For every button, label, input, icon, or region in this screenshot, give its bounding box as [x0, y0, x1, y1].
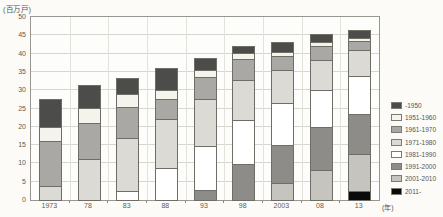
- bar-1973: [39, 99, 62, 200]
- segment-13-1981-1990: [348, 76, 371, 115]
- legend-label: 1991-2000: [405, 163, 436, 170]
- y-tick-label-20: 20: [18, 123, 26, 130]
- x-tick-label-13: 13: [355, 202, 363, 209]
- gridline-x-separator: [70, 17, 71, 200]
- gridline-x-separator: [340, 17, 341, 200]
- y-tick-label-5: 5: [22, 178, 26, 185]
- y-tick-label-0: 0: [22, 196, 26, 203]
- x-tick-mark: [69, 200, 70, 203]
- segment-88-1971-1980: [155, 119, 178, 169]
- segment-1973--1950: [39, 99, 62, 128]
- segment-98-1971-1980: [232, 80, 255, 121]
- y-tick-label-10: 10: [18, 159, 26, 166]
- segment-08-1961-1970: [310, 46, 333, 61]
- bar-2003: [271, 42, 294, 200]
- x-tick-label-1973: 1973: [42, 202, 58, 209]
- legend-item-1971-1980: 1971-1980: [391, 136, 443, 148]
- segment-1973-1951-1960: [39, 127, 62, 143]
- gridline-x-separator: [302, 17, 303, 200]
- segment-83--1950: [116, 78, 139, 94]
- legend-item-1951-1960: 1951-1960: [391, 111, 443, 123]
- legend-label: 1951-1960: [405, 114, 436, 121]
- y-tick-label-30: 30: [18, 86, 26, 93]
- legend-swatch-icon: [391, 114, 402, 121]
- legend-item-1991-2000: 1991-2000: [391, 160, 443, 172]
- gridline-x-separator: [224, 17, 225, 200]
- segment-78-1951-1960: [78, 108, 101, 123]
- segment-13-1971-1980: [348, 50, 371, 76]
- segment-93-1971-1980: [194, 99, 217, 147]
- bar-83: [116, 78, 139, 200]
- legend-label: 2001-2010: [405, 175, 436, 182]
- legend-item-2001-2010: 2001-2010: [391, 173, 443, 185]
- x-tick-label-08: 08: [316, 202, 324, 209]
- x-tick-label-2003: 2003: [274, 202, 290, 209]
- segment-08-1991-2000: [310, 127, 333, 171]
- legend-swatch-icon: [391, 188, 402, 195]
- housing-stock-stacked-bar-chart: (百万戸) 05101520253035404550 1973788388939…: [0, 0, 443, 217]
- x-tick-label-83: 83: [123, 202, 131, 209]
- legend: -19501951-19601961-19701971-19801981-199…: [391, 99, 443, 197]
- y-tick-label-15: 15: [18, 141, 26, 148]
- bar-93: [194, 58, 217, 200]
- segment-08-2001-2010: [310, 170, 333, 201]
- legend-swatch-icon: [391, 126, 402, 133]
- x-tick-mark: [223, 200, 224, 203]
- bar-78: [78, 85, 101, 200]
- segment-2003-1961-1970: [271, 56, 294, 70]
- x-tick-label-88: 88: [161, 202, 169, 209]
- legend-label: 1961-1970: [405, 126, 436, 133]
- segment-2003-1991-2000: [271, 145, 294, 184]
- x-tick-mark: [107, 200, 108, 203]
- x-tick-label-98: 98: [239, 202, 247, 209]
- segment-78-1971-1980: [78, 159, 101, 201]
- segment-93-1981-1990: [194, 146, 217, 191]
- segment-08-1971-1980: [310, 60, 333, 91]
- bar-13: [348, 30, 371, 200]
- segment-83-1971-1980: [116, 138, 139, 193]
- segment-78-1961-1970: [78, 123, 101, 160]
- segment-2003-1971-1980: [271, 70, 294, 104]
- gridline-x-separator: [263, 17, 264, 200]
- legend-label: 1981-1990: [405, 151, 436, 158]
- legend-item-2011-: 2011-: [391, 185, 443, 197]
- legend-label: 1971-1980: [405, 139, 436, 146]
- y-tick-label-45: 45: [18, 31, 26, 38]
- x-tick-mark: [339, 200, 340, 203]
- x-tick-mark: [301, 200, 302, 203]
- bar-08: [310, 34, 333, 200]
- plot-area: [30, 16, 380, 201]
- x-axis-unit-label: (年): [382, 202, 394, 212]
- legend-swatch-icon: [391, 175, 402, 182]
- x-tick-label-78: 78: [84, 202, 92, 209]
- segment-98-1961-1970: [232, 59, 255, 81]
- legend-label: -1950: [405, 102, 422, 109]
- x-tick-label-93: 93: [200, 202, 208, 209]
- segment-83-1961-1970: [116, 107, 139, 139]
- segment-13-2001-2010: [348, 154, 371, 192]
- segment-93-1961-1970: [194, 77, 217, 100]
- segment-88-1981-1990: [155, 168, 178, 201]
- y-tick-label-40: 40: [18, 50, 26, 57]
- x-tick-mark: [262, 200, 263, 203]
- legend-item-1961-1970: 1961-1970: [391, 124, 443, 136]
- segment-83-1951-1960: [116, 94, 139, 108]
- segment-08-1981-1990: [310, 90, 333, 128]
- legend-swatch-icon: [391, 151, 402, 158]
- y-tick-label-50: 50: [18, 13, 26, 20]
- bar-88: [155, 68, 178, 200]
- x-tick-mark: [146, 200, 147, 203]
- bar-98: [232, 46, 255, 200]
- gridline-x-separator: [108, 17, 109, 200]
- gridline-x-separator: [147, 17, 148, 200]
- legend-label: 2011-: [405, 188, 421, 195]
- legend-swatch-icon: [391, 139, 402, 146]
- legend-swatch-icon: [391, 102, 402, 109]
- segment-88-1961-1970: [155, 99, 178, 120]
- segment-98-1991-2000: [232, 164, 255, 201]
- x-tick-mark: [185, 200, 186, 203]
- legend-item-1981-1990: 1981-1990: [391, 148, 443, 160]
- segment-1973-1961-1970: [39, 141, 62, 187]
- gridline-x-separator: [186, 17, 187, 200]
- x-axis: 1973788388939820030813: [30, 199, 378, 213]
